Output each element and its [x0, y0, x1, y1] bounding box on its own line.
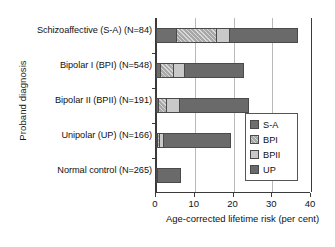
- y-tick-1: [152, 53, 156, 54]
- legend-item-up: UP: [250, 162, 293, 177]
- bar-0: [156, 28, 297, 43]
- y-tick-2: [152, 88, 156, 89]
- legend: S-A BPI BPII UP: [245, 113, 298, 181]
- bar-segment-bpi: [176, 28, 217, 43]
- bar-segment-up: [184, 63, 244, 78]
- bar-1: [156, 63, 243, 78]
- category-label-normal-control: Normal control (N=265): [4, 165, 152, 175]
- x-tick-mark-40: [310, 193, 311, 197]
- y-axis-category-labels: Schizoaffective (S-A) (N=84) Bipolar I (…: [4, 18, 152, 193]
- bar-segment-s-a: [156, 28, 177, 43]
- y-tick-4: [152, 158, 156, 159]
- bar-segment-up: [163, 133, 231, 148]
- bar-segment-bpii: [216, 28, 230, 43]
- bar-4: [156, 168, 180, 183]
- x-tick-mark-10: [194, 193, 195, 197]
- legend-item-bpii: BPII: [250, 147, 293, 162]
- legend-swatch-bpii-icon: [250, 150, 259, 159]
- bar-2: [156, 98, 248, 113]
- legend-label-bpi: BPI: [263, 135, 278, 145]
- bar-segment-up: [179, 98, 249, 113]
- gridline-40: [311, 18, 312, 192]
- x-tick-mark-0: [155, 193, 156, 197]
- x-tick-mark-30: [271, 193, 272, 197]
- bar-segment-up: [157, 168, 181, 183]
- legend-label-bpii: BPII: [263, 150, 280, 160]
- bar-segment-bpii: [166, 98, 180, 113]
- legend-swatch-up-icon: [250, 165, 259, 174]
- x-axis-ticks: 010203040: [155, 193, 310, 211]
- x-tick-label-0: 0: [152, 198, 157, 209]
- category-label-unipolar: Unipolar (UP) (N=166): [4, 130, 152, 140]
- x-tick-label-30: 30: [266, 198, 277, 209]
- x-tick-mark-20: [233, 193, 234, 197]
- bar-segment-up: [229, 28, 299, 43]
- x-tick-label-40: 40: [305, 198, 316, 209]
- legend-label-up: UP: [263, 165, 276, 175]
- category-label-schizoaffective: Schizoaffective (S-A) (N=84): [4, 25, 152, 35]
- legend-label-sa: S-A: [263, 120, 278, 130]
- category-label-bipolar-ii: Bipolar II (BPII) (N=191): [4, 95, 152, 105]
- legend-swatch-sa-icon: [250, 120, 259, 129]
- y-tick-3: [152, 123, 156, 124]
- legend-item-sa: S-A: [250, 117, 293, 132]
- x-axis-title: Age-corrected lifetime risk (per cent): [150, 213, 335, 224]
- x-tick-label-10: 10: [188, 198, 199, 209]
- category-label-bipolar-i: Bipolar I (BPI) (N=548): [4, 60, 152, 70]
- x-tick-label-20: 20: [227, 198, 238, 209]
- bar-chart: Proband diagnosis Schizoaffective (S-A) …: [0, 0, 335, 247]
- bar-3: [156, 133, 230, 148]
- bar-segment-bpi: [160, 63, 174, 78]
- legend-swatch-bpi-icon: [250, 135, 259, 144]
- legend-item-bpi: BPI: [250, 132, 293, 147]
